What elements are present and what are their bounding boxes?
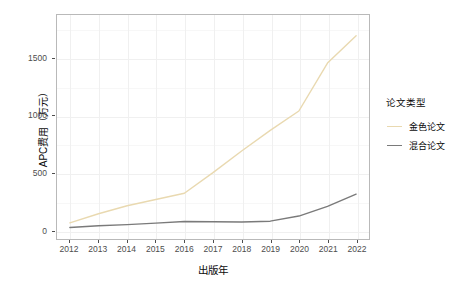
- y-tick-mark: [52, 58, 55, 59]
- x-tick-label: 2018: [232, 244, 251, 254]
- x-tick-label: 2017: [204, 244, 223, 254]
- x-tick-mark: [357, 240, 358, 243]
- y-tick-label: 1000: [0, 110, 47, 120]
- y-tick-mark: [52, 173, 55, 174]
- y-tick-mark: [52, 231, 55, 232]
- legend-key-swatch: [386, 140, 403, 151]
- x-tick-mark: [271, 240, 272, 243]
- x-tick-mark: [98, 240, 99, 243]
- x-tick-mark: [155, 240, 156, 243]
- legend-item-label: 金色论文: [409, 120, 445, 133]
- x-tick-label: 2019: [261, 244, 280, 254]
- x-tick-label: 2021: [319, 244, 338, 254]
- y-tick-label: 1500: [0, 53, 47, 63]
- x-tick-mark: [328, 240, 329, 243]
- legend: 论文类型 金色论文混合论文: [386, 95, 466, 156]
- x-tick-label: 2013: [88, 244, 107, 254]
- legend-key-swatch: [386, 121, 403, 132]
- x-tick-label: 2016: [175, 244, 194, 254]
- x-tick-mark: [242, 240, 243, 243]
- series-line-2: [70, 194, 356, 227]
- x-tick-label: 2020: [290, 244, 309, 254]
- y-axis-title-container: APC费用（万元）: [8, 0, 28, 254]
- x-tick-label: 2012: [59, 244, 78, 254]
- legend-items: 金色论文混合论文: [386, 118, 466, 153]
- x-tick-mark: [127, 240, 128, 243]
- x-tick-label: 2022: [348, 244, 367, 254]
- x-tick-mark: [184, 240, 185, 243]
- legend-item-1[interactable]: 金色论文: [386, 118, 466, 134]
- y-tick-label: 0: [0, 226, 47, 236]
- x-tick-mark: [69, 240, 70, 243]
- legend-title: 论文类型: [386, 95, 466, 109]
- x-axis-title: 出版年: [56, 262, 370, 277]
- x-tick-label: 2015: [146, 244, 165, 254]
- y-tick-mark: [52, 115, 55, 116]
- x-tick-mark: [299, 240, 300, 243]
- chart-figure: APC费用（万元） 050010001500 20122013201420152…: [0, 0, 469, 286]
- x-tick-mark: [213, 240, 214, 243]
- x-tick-label: 2014: [117, 244, 136, 254]
- legend-item-label: 混合论文: [409, 139, 445, 152]
- plot-panel: [56, 14, 370, 240]
- series-lines: [57, 15, 369, 239]
- y-axis-title: APC费用（万元）: [35, 87, 50, 168]
- series-line-1: [70, 36, 356, 223]
- legend-item-2[interactable]: 混合论文: [386, 137, 466, 153]
- y-tick-label: 500: [0, 168, 47, 178]
